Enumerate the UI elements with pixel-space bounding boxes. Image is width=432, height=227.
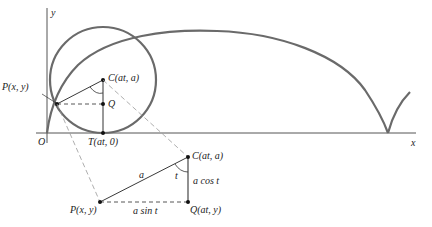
label-T: T(at, 0) — [88, 137, 118, 147]
x-axis-label: x — [411, 138, 415, 148]
label-C: C(at, a) — [108, 73, 139, 83]
detail-point-C — [186, 155, 190, 159]
angle-arc — [90, 87, 103, 93]
detail-label-C: C(at, a) — [192, 151, 223, 161]
label-Q: Q — [108, 99, 115, 109]
point-Q — [101, 102, 105, 106]
origin-label: O — [38, 137, 45, 147]
point-T — [101, 131, 105, 135]
label-P: P(x, y) — [2, 82, 29, 92]
detail-label-P: P(x, y) — [70, 205, 97, 215]
diagram-graphics — [0, 0, 432, 227]
detail-label-a: a — [139, 170, 144, 180]
y-axis-label: y — [51, 8, 55, 18]
detail-point-P — [98, 200, 102, 204]
detail-label-asint: a sin t — [133, 206, 157, 216]
cycloid-next-arch — [388, 92, 410, 133]
detail-label-Q: Q(at, y) — [190, 205, 221, 215]
detail-label-acost: a cos t — [193, 176, 219, 186]
detail-label-t: t — [175, 171, 178, 181]
cycloid-curve — [47, 31, 388, 133]
projection-line-left — [57, 104, 100, 202]
cycloid-diagram: y x O P(x, y) C(at, a) Q T(at, 0) C(at, … — [0, 0, 432, 227]
